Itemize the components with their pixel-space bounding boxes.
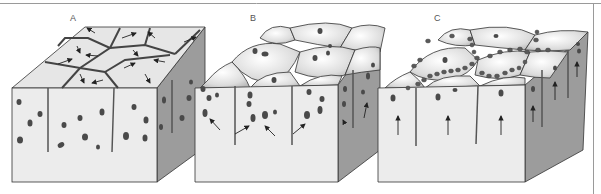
panel-c: C xyxy=(378,13,588,182)
panel-a: A xyxy=(12,13,205,182)
panel-label-a: A xyxy=(70,13,76,23)
front-face xyxy=(378,85,525,182)
panel-b: B xyxy=(195,13,385,182)
diagram-frame: A xyxy=(0,0,601,194)
panel-label-c: C xyxy=(434,13,441,23)
panel-label-b: B xyxy=(250,13,256,23)
front-face xyxy=(195,85,338,182)
epithelium-diagram: A xyxy=(0,0,601,194)
